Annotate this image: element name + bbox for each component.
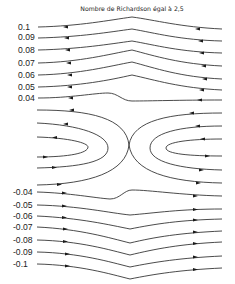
- lower-labels: -0.04 -0.05 -0.06 -0.07 -0.08 -0.09 -0.1: [13, 187, 33, 269]
- label-0.09: 0.09: [18, 32, 35, 42]
- right-loop-arrows: [189, 112, 210, 185]
- label-neg-0.04: -0.04: [13, 187, 33, 197]
- label-neg-0.08: -0.08: [13, 235, 33, 245]
- label-0.1: 0.1: [18, 22, 30, 32]
- lower-arrows: [62, 192, 198, 272]
- upper-arrows: [63, 26, 207, 102]
- label-0.06: 0.06: [18, 70, 35, 80]
- left-loop-arrows: [43, 109, 74, 187]
- label-0.07: 0.07: [18, 58, 35, 68]
- right-recirculation-loops: [129, 112, 222, 185]
- label-neg-0.05: -0.05: [13, 200, 33, 210]
- label-0.08: 0.08: [18, 45, 35, 55]
- label-0.04: 0.04: [18, 93, 35, 103]
- upper-labels: 0.1 0.09 0.08 0.07 0.06 0.05 0.04: [18, 22, 35, 103]
- diagram-title: Nombre de Richardson égal à 2,5: [80, 5, 184, 13]
- label-neg-0.06: -0.06: [13, 211, 33, 221]
- label-0.05: 0.05: [18, 82, 35, 92]
- label-neg-0.09: -0.09: [13, 247, 33, 257]
- label-neg-0.1: -0.1: [13, 259, 28, 269]
- left-recirculation-loops: [37, 109, 129, 187]
- lower-streamlines: [37, 190, 222, 279]
- label-neg-0.07: -0.07: [13, 222, 33, 232]
- streamline-diagram: Nombre de Richardson égal à 2,5 0.1 0.09…: [0, 0, 235, 284]
- upper-streamlines: [38, 17, 222, 102]
